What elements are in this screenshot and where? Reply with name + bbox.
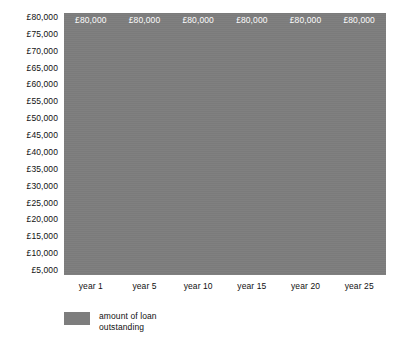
bar-value-label: £80,000: [171, 15, 225, 25]
legend-swatch-loan-outstanding: [64, 312, 90, 325]
bar-value-label: £80,000: [64, 15, 118, 25]
plot-area: £80,000£80,000£80,000£80,000£80,000£80,0…: [64, 13, 386, 275]
bar: [118, 13, 172, 275]
y-axis-tick-label: £30,000: [0, 182, 58, 191]
y-axis-tick-label: £35,000: [0, 165, 58, 174]
y-axis-tick-label: £70,000: [0, 47, 58, 56]
y-axis-tick-label: £80,000: [0, 13, 58, 22]
x-axis-tick-label: year 25: [332, 280, 386, 294]
bar-slot: £80,000: [64, 13, 118, 275]
y-axis-tick-label: £65,000: [0, 64, 58, 73]
x-axis-tick-label: year 10: [171, 280, 225, 294]
bar-value-label: £80,000: [279, 15, 333, 25]
bar-chart: £80,000£75,000£70,000£65,000£60,000£55,0…: [0, 0, 394, 358]
bar: [225, 13, 279, 275]
y-axis-tick-label: £25,000: [0, 199, 58, 208]
bar-value-label: £80,000: [332, 15, 386, 25]
y-axis-tick-label: £75,000: [0, 30, 58, 39]
x-axis-tick-label: year 1: [64, 280, 118, 294]
y-axis-tick-label: £5,000: [0, 266, 58, 275]
bar-value-label: £80,000: [118, 15, 172, 25]
y-axis: £80,000£75,000£70,000£65,000£60,000£55,0…: [0, 13, 60, 275]
legend: amount of loan outstanding: [64, 311, 157, 333]
bar: [171, 13, 225, 275]
bar-value-label: £80,000: [225, 15, 279, 25]
bar: [279, 13, 333, 275]
x-axis-tick-label: year 15: [225, 280, 279, 294]
y-axis-tick-label: £20,000: [0, 215, 58, 224]
bar-series: £80,000£80,000£80,000£80,000£80,000£80,0…: [64, 13, 386, 275]
y-axis-tick-label: £40,000: [0, 148, 58, 157]
bar: [64, 13, 118, 275]
y-axis-tick-label: £15,000: [0, 232, 58, 241]
y-axis-tick-label: £55,000: [0, 97, 58, 106]
bar: [332, 13, 386, 275]
x-axis: year 1year 5year 10year 15year 20year 25: [64, 280, 386, 294]
x-axis-tick-label: year 5: [118, 280, 172, 294]
y-axis-tick-label: £60,000: [0, 80, 58, 89]
legend-label-loan-outstanding: amount of loan outstanding: [99, 311, 157, 333]
x-axis-tick-label: year 20: [279, 280, 333, 294]
bar-slot: £80,000: [332, 13, 386, 275]
y-axis-tick-label: £45,000: [0, 131, 58, 140]
bar-slot: £80,000: [225, 13, 279, 275]
bar-slot: £80,000: [118, 13, 172, 275]
y-axis-tick-label: £10,000: [0, 249, 58, 258]
bar-slot: £80,000: [279, 13, 333, 275]
y-axis-tick-label: £50,000: [0, 114, 58, 123]
bar-slot: £80,000: [171, 13, 225, 275]
